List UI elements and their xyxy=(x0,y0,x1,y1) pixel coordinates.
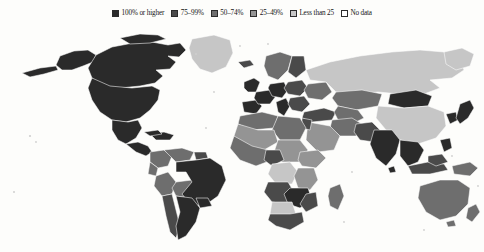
island-speck xyxy=(239,45,241,47)
island-speck xyxy=(35,141,37,143)
region-madagascar xyxy=(328,184,344,210)
region-central-america xyxy=(126,142,152,156)
region-british-isles xyxy=(244,78,260,92)
region-tasmania xyxy=(446,220,456,227)
island-speck xyxy=(451,155,453,157)
island-speck xyxy=(205,127,207,129)
region-philippines xyxy=(440,138,452,152)
region-new-zealand xyxy=(466,204,480,222)
legend-swatch-less-than-25 xyxy=(290,10,297,17)
island-speck xyxy=(343,221,345,223)
legend-swatch-25-49 xyxy=(250,10,257,17)
island-speck xyxy=(13,191,15,193)
legend-label-no-data: No data xyxy=(350,9,372,17)
region-canada xyxy=(88,42,186,88)
legend-swatch-50-74 xyxy=(211,10,218,17)
legend-label-100-or-higher: 100% or higher xyxy=(122,9,165,17)
island-speck xyxy=(423,229,425,231)
legend-swatch-100-or-higher xyxy=(112,10,119,17)
legend-label-50-74: 50–74% xyxy=(220,9,243,17)
region-new-guinea xyxy=(452,162,478,176)
legend-swatch-no-data xyxy=(341,10,348,17)
region-southeast-asia xyxy=(400,140,424,166)
region-aleutians xyxy=(22,66,58,77)
legend-label-less-than-25: Less than 25 xyxy=(299,9,334,17)
island-speck xyxy=(213,91,215,93)
region-ukraine xyxy=(304,82,332,100)
world-map-figure: 100% or higher 75–99% 50–74% 25–49% Less… xyxy=(0,0,484,252)
region-sri-lanka xyxy=(388,166,396,173)
island-speck xyxy=(195,53,197,55)
region-south-africa xyxy=(268,212,304,230)
legend-item-no-data: No data xyxy=(341,9,372,17)
legend-label-75-99: 75–99% xyxy=(181,9,204,17)
map-canvas xyxy=(0,26,484,248)
island-speck xyxy=(351,171,353,173)
map-legend: 100% or higher 75–99% 50–74% 25–49% Less… xyxy=(0,9,484,17)
region-balkans xyxy=(288,96,310,112)
region-russia xyxy=(306,50,464,94)
region-scandinavia xyxy=(264,52,292,80)
legend-item-50-74: 50–74% xyxy=(211,9,244,17)
region-ethiopia-horn xyxy=(298,150,326,168)
region-peru xyxy=(154,172,176,196)
legend-item-75-99: 75–99% xyxy=(171,9,204,17)
region-iceland xyxy=(238,60,254,68)
legend-label-25-49: 25–49% xyxy=(260,9,283,17)
region-central-africa xyxy=(268,162,298,184)
region-mexico xyxy=(112,120,142,144)
legend-item-25-49: 25–49% xyxy=(250,9,283,17)
island-speck xyxy=(29,135,31,137)
region-india xyxy=(370,130,400,166)
region-east-africa xyxy=(294,168,318,190)
legend-swatch-75-99 xyxy=(171,10,178,17)
legend-item-100-or-higher: 100% or higher xyxy=(112,9,164,17)
region-poland-central-europe xyxy=(284,80,308,96)
region-canadian-arctic xyxy=(120,34,166,44)
region-japan xyxy=(456,100,474,124)
world-map-svg xyxy=(0,26,484,248)
region-australia xyxy=(418,180,470,220)
region-italy xyxy=(276,98,290,116)
region-libya-egypt xyxy=(272,116,306,140)
legend-item-less-than-25: Less than 25 xyxy=(290,9,334,17)
island-speck xyxy=(477,185,479,187)
island-speck xyxy=(267,43,269,45)
